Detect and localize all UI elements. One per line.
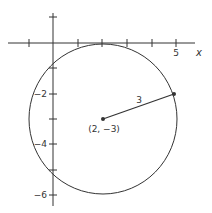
y-tick-label-neg4: −4 [34, 139, 48, 149]
x-tick-label-5: 5 [173, 48, 179, 58]
center-point [101, 117, 105, 121]
y-tick-label-neg6: −6 [34, 190, 48, 200]
radius-label: 3 [136, 95, 142, 105]
radius-endpoint [172, 92, 176, 96]
y-tick-label-neg2: −2 [34, 89, 47, 99]
center-label: (2, −3) [88, 124, 120, 134]
circle-graph-figure: 5 x −2 −4 −6 3 (2, −3) [0, 0, 212, 213]
x-axis-label: x [195, 47, 202, 58]
